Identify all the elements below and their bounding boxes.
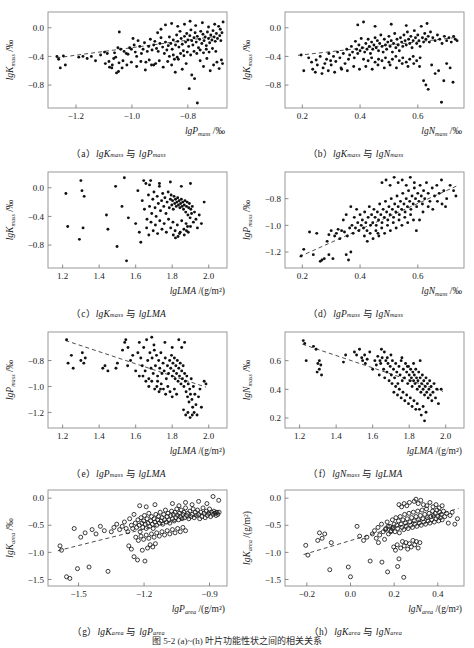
data-point <box>355 524 359 528</box>
data-point <box>138 375 141 378</box>
data-point <box>428 200 431 203</box>
data-point <box>192 385 195 388</box>
data-point <box>321 72 324 75</box>
data-point <box>136 538 140 542</box>
data-point <box>400 505 404 509</box>
y-tick-label: −0.8 <box>28 356 45 366</box>
data-point <box>426 22 429 25</box>
data-point <box>173 58 176 61</box>
plot-frame <box>48 332 227 428</box>
y-tick-label: 0.0 <box>270 23 282 33</box>
data-point <box>181 68 184 71</box>
data-point <box>139 241 142 244</box>
data-point <box>363 353 366 356</box>
data-point <box>386 356 389 359</box>
data-point <box>184 380 187 383</box>
caption-y-sub: mass <box>110 151 123 158</box>
data-point <box>157 50 160 53</box>
data-point <box>135 65 138 68</box>
data-point <box>418 408 421 411</box>
data-point <box>169 390 172 393</box>
data-point <box>409 208 412 211</box>
data-point <box>326 240 329 243</box>
data-point <box>171 48 174 51</box>
data-point <box>377 64 380 67</box>
data-point <box>165 49 168 52</box>
data-point <box>357 229 360 232</box>
data-point <box>83 531 87 535</box>
x-tick-label: 0.6 <box>412 111 424 121</box>
data-point <box>376 355 379 358</box>
data-point <box>158 42 161 45</box>
data-point <box>102 529 106 533</box>
data-point <box>340 66 343 69</box>
data-point <box>430 64 433 67</box>
data-point <box>148 59 151 62</box>
data-point <box>434 503 438 507</box>
data-point <box>180 346 183 349</box>
data-point <box>384 359 387 362</box>
panel-f: 1.21.41.61.82.00.60.40.2lgLMA /(g/m²)lgN… <box>237 320 474 480</box>
data-point <box>413 187 416 190</box>
data-point <box>195 52 198 55</box>
data-point <box>182 385 185 388</box>
data-point <box>420 414 423 417</box>
data-point <box>208 51 211 54</box>
data-point <box>340 229 343 232</box>
data-point <box>383 376 386 379</box>
data-point <box>170 354 173 357</box>
data-point <box>389 229 392 232</box>
data-point <box>419 498 423 502</box>
data-point <box>195 41 198 44</box>
data-point <box>412 203 415 206</box>
data-point <box>327 253 330 256</box>
data-point <box>220 59 223 62</box>
data-point <box>188 34 191 37</box>
data-point <box>67 362 70 365</box>
data-point <box>171 221 174 224</box>
data-point <box>436 33 439 36</box>
data-point <box>413 399 416 402</box>
data-point <box>213 23 216 26</box>
caption-x-var: lgN <box>376 149 390 159</box>
data-point <box>364 221 367 224</box>
panel-caption-a: （a）lgKmass 与 lgPmass <box>0 146 237 160</box>
data-point <box>154 364 157 367</box>
data-point <box>372 237 375 240</box>
data-point <box>431 509 435 513</box>
data-point <box>419 359 422 362</box>
data-point <box>143 559 147 563</box>
data-point <box>388 379 391 382</box>
x-tick-label: 0.2 <box>389 589 400 599</box>
data-point <box>138 231 141 234</box>
data-point <box>431 208 434 211</box>
data-point <box>151 49 154 52</box>
data-point <box>402 203 405 206</box>
data-point <box>160 382 163 385</box>
data-point <box>176 56 179 59</box>
data-point <box>172 234 175 237</box>
data-point <box>376 211 379 214</box>
data-point <box>116 46 119 49</box>
data-point <box>214 40 217 43</box>
data-point <box>449 66 452 69</box>
y-tick-label: −1.0 <box>28 382 45 392</box>
data-point <box>167 191 170 194</box>
data-point <box>140 548 144 552</box>
data-point <box>345 48 348 51</box>
data-point <box>158 59 161 62</box>
data-point <box>114 56 117 59</box>
data-point <box>209 69 212 72</box>
y-axis-title: lgNmass /‰ <box>242 359 253 400</box>
data-point <box>169 181 172 184</box>
data-point <box>138 45 141 48</box>
data-point <box>405 44 408 47</box>
data-point <box>400 356 403 359</box>
y-tick-label: 0.0 <box>33 23 45 33</box>
data-point <box>168 359 171 362</box>
data-point <box>180 37 183 40</box>
data-point <box>162 388 165 391</box>
data-point <box>59 66 62 69</box>
data-point <box>121 349 124 352</box>
data-point <box>374 25 377 28</box>
